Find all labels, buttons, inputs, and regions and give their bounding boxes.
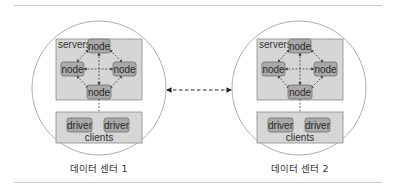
driver-2: driver bbox=[305, 118, 331, 132]
datacenter-1: servers node node node node bbox=[32, 21, 166, 155]
driver-2: driver bbox=[104, 118, 130, 132]
node-right: node bbox=[113, 62, 136, 76]
node-top: node bbox=[88, 39, 111, 53]
svg-text:driver: driver bbox=[104, 120, 130, 131]
svg-text:driver: driver bbox=[268, 120, 294, 131]
svg-text:node: node bbox=[289, 41, 312, 52]
driver-1: driver bbox=[268, 118, 294, 132]
servers-label: servers bbox=[58, 39, 91, 50]
svg-text:node: node bbox=[88, 41, 111, 52]
svg-text:node: node bbox=[88, 87, 111, 98]
svg-text:node: node bbox=[113, 64, 136, 75]
node-top: node bbox=[289, 39, 312, 53]
svg-text:node: node bbox=[262, 64, 285, 75]
clients-label: clients bbox=[286, 132, 314, 143]
datacenter-2-label: 데이터 센터 2 bbox=[240, 161, 360, 175]
servers-label: servers bbox=[259, 39, 292, 50]
svg-text:driver: driver bbox=[305, 120, 331, 131]
driver-1: driver bbox=[67, 118, 93, 132]
clients-label: clients bbox=[85, 132, 113, 143]
node-bottom: node bbox=[288, 85, 312, 99]
svg-text:node: node bbox=[289, 87, 312, 98]
node-left: node bbox=[262, 62, 285, 76]
svg-text:node: node bbox=[61, 64, 84, 75]
svg-text:node: node bbox=[314, 64, 337, 75]
node-right: node bbox=[314, 62, 337, 76]
datacenter-1-label: 데이터 센터 1 bbox=[39, 161, 159, 175]
datacenter-2: servers node node node node bbox=[232, 21, 366, 155]
node-bottom: node bbox=[87, 85, 111, 99]
node-left: node bbox=[61, 62, 84, 76]
svg-text:driver: driver bbox=[67, 120, 93, 131]
